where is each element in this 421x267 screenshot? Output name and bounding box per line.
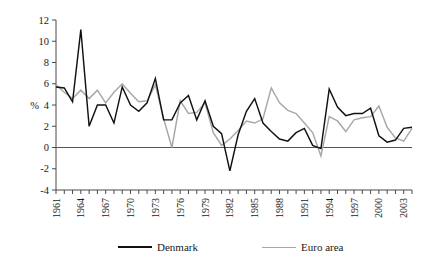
legend-swatch-euro-area — [262, 247, 296, 248]
x-axis-tick-label: 1997 — [349, 198, 360, 218]
chart-container: -4-2024681012%19611964196719701973197619… — [0, 0, 421, 267]
line-chart-svg: -4-2024681012%19611964196719701973197619… — [0, 0, 421, 232]
x-axis-tick-label: 1964 — [75, 198, 86, 218]
y-axis-tick-label: -4 — [40, 185, 49, 196]
y-axis-tick-label: 8 — [44, 57, 49, 68]
x-axis-tick-label: 1970 — [125, 198, 136, 218]
y-axis-tick-label: 4 — [44, 100, 50, 111]
y-axis-title: % — [30, 100, 39, 111]
y-axis-tick-label: 10 — [39, 36, 50, 47]
x-axis-tick-label: 1994 — [324, 198, 335, 218]
legend-item-euro-area: Euro area — [262, 241, 343, 253]
x-axis-tick-label: 1973 — [150, 198, 161, 218]
plot-area: -4-2024681012%19611964196719701973197619… — [0, 0, 421, 232]
legend-item-denmark: Denmark — [118, 241, 198, 253]
y-axis-tick-label: -2 — [40, 163, 49, 174]
y-axis-tick-label: 0 — [44, 142, 49, 153]
y-axis-tick-label: 2 — [44, 121, 49, 132]
legend-label-euro-area: Euro area — [301, 241, 343, 253]
y-axis-tick-label: 12 — [39, 15, 50, 26]
series-line-denmark — [56, 30, 412, 171]
x-axis-tick-label: 2003 — [398, 198, 409, 218]
x-axis-tick-label: 1991 — [299, 198, 310, 218]
legend-label-denmark: Denmark — [157, 241, 198, 253]
x-axis-tick-label: 1961 — [51, 198, 62, 218]
legend-swatch-denmark — [118, 246, 152, 248]
x-axis-tick-label: 2000 — [373, 198, 384, 218]
x-axis-tick-label: 1967 — [100, 198, 111, 218]
x-axis-tick-label: 1985 — [249, 198, 260, 218]
y-axis-tick-label: 6 — [44, 78, 49, 89]
series-line-euro-area — [56, 84, 412, 156]
x-axis-tick-label: 1976 — [175, 198, 186, 218]
x-axis-tick-label: 1982 — [224, 198, 235, 218]
chart-legend: Denmark Euro area — [0, 234, 421, 267]
x-axis-tick-label: 1979 — [200, 198, 211, 218]
x-axis-tick-label: 1988 — [274, 198, 285, 218]
